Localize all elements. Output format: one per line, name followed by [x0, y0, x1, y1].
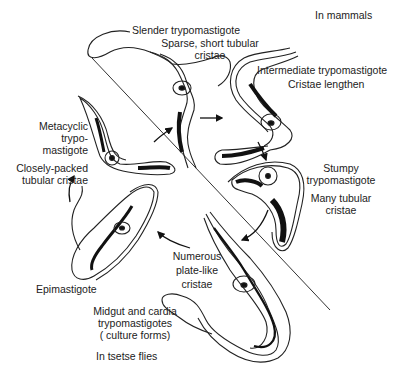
- label-line: trypo-: [20, 132, 88, 144]
- arrow-stumpy-to-midgut: [242, 210, 268, 240]
- label-metacyclic-trypomastigote: Metacyclic trypo- mastigote: [20, 120, 88, 156]
- note-line: cristae: [306, 204, 376, 216]
- note-line: Many tubular: [306, 192, 376, 204]
- note-line: tubular cristae: [6, 174, 88, 186]
- note-line: Sparse, short tubular: [150, 37, 270, 49]
- note-metacyclic-cristae: Closely-packed tubular cristae: [6, 162, 88, 186]
- epimastigote-cell: [72, 185, 158, 281]
- label-slender-trypomastigote: Slender trypomastigote: [132, 24, 240, 36]
- label-intermediate-trypomastigote: Intermediate trypomastigote: [257, 64, 387, 76]
- note-line: plate-like: [170, 264, 224, 276]
- note-line: cristae: [170, 278, 224, 290]
- note-line: cristae: [150, 49, 270, 61]
- stumpy-trypomastigote-cell: [228, 162, 304, 251]
- label-line: Midgut and cardia: [85, 305, 185, 317]
- label-line: trypomastigotes: [85, 317, 185, 329]
- label-line: mastigote: [20, 144, 88, 156]
- note-midgut-cristae: Numerous plate-like cristae: [170, 250, 224, 290]
- note-line: Numerous: [170, 250, 224, 262]
- note-stumpy-cristae: Many tubular cristae: [306, 192, 376, 216]
- label-line: ( culture forms): [85, 329, 185, 341]
- note-line: Closely-packed: [6, 162, 88, 174]
- note-intermediate-cristae: Cristae lengthen: [288, 78, 364, 90]
- label-midgut-trypomastigotes: Midgut and cardia trypomastigotes ( cult…: [85, 305, 185, 341]
- label-stumpy-trypomastigote: Stumpy trypomastigote: [306, 162, 376, 186]
- label-line: Stumpy: [306, 162, 376, 174]
- arrow-midgut-to-epimastigote: [158, 232, 190, 248]
- label-line: Metacyclic: [20, 120, 88, 132]
- label-epimastigote: Epimastigote: [36, 283, 97, 295]
- region-label-tsetse: In tsetse flies: [96, 350, 157, 362]
- metacyclic-trypomastigote-cell: [78, 96, 175, 175]
- region-label-mammals: In mammals: [315, 9, 372, 21]
- note-slender-cristae: Sparse, short tubular cristae: [150, 37, 270, 61]
- label-line: trypomastigote: [306, 174, 376, 186]
